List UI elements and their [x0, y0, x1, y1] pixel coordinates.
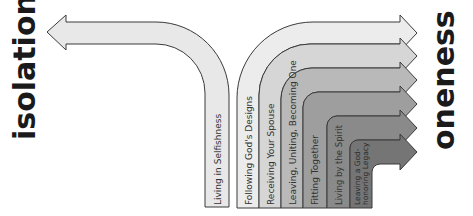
- right-arrow-4-label: Fitting Together: [310, 135, 320, 205]
- right-arrow-1-label: Following God's Designs: [244, 96, 254, 205]
- right-arrow-2-label: Receiving Your Spouse: [266, 103, 276, 205]
- right-arrow-6: Leaving a God- honoring Legacy: [350, 134, 417, 208]
- left-arrow-label: Living in Selfishness: [213, 114, 223, 205]
- left-arrow-shape: [47, 15, 229, 207]
- left-arrow: Living in Selfishness: [47, 15, 229, 207]
- isolation-label: isolation: [7, 0, 42, 140]
- right-arrow-3-label: Leaving, Uniting, Becoming One: [288, 60, 298, 205]
- diagram-stage: Living in Selfishness Following God's De…: [0, 0, 473, 216]
- right-arrow-6-label-line-2: honoring Legacy: [361, 142, 370, 205]
- arrow-diagram: Living in Selfishness Following God's De…: [0, 0, 473, 216]
- oneness-label: oneness: [426, 10, 461, 150]
- right-arrow-5-label: Living by the Spirit: [334, 124, 344, 205]
